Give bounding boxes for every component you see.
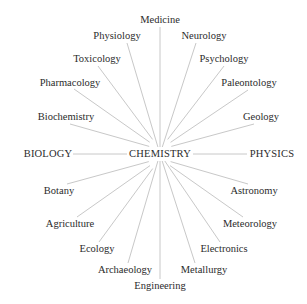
connector-line (171, 90, 248, 142)
node-label-botany: Botany (44, 185, 74, 197)
node-label-pharmacology: Pharmacology (40, 77, 101, 89)
node-label-engineering: Engineering (134, 280, 185, 292)
node-label-medicine: Medicine (140, 14, 180, 26)
connector-line (70, 124, 149, 146)
node-label-agriculture: Agriculture (46, 218, 94, 230)
node-label-biology: BIOLOGY (24, 148, 73, 160)
chemistry-central-science-diagram: CHEMISTRY MedicinePhysiologyNeurologyTox… (0, 0, 307, 304)
connector-line (77, 166, 150, 217)
node-label-ecology: Ecology (80, 243, 115, 255)
node-label-biochemistry: Biochemistry (38, 111, 95, 123)
node-label-psychology: Psychology (199, 53, 248, 65)
node-label-physiology: Physiology (93, 30, 140, 42)
node-label-physics: PHYSICS (250, 148, 295, 160)
node-label-neurology: Neurology (182, 30, 227, 42)
connector-line (128, 161, 158, 263)
node-label-toxicology: Toxicology (73, 53, 121, 65)
connector-line (162, 161, 195, 263)
connector-line (127, 43, 158, 147)
node-label-electronics: Electronics (200, 243, 247, 255)
connector-line (171, 162, 248, 184)
node-label-geology: Geology (243, 111, 279, 123)
node-label-astronomy: Astronomy (230, 185, 277, 197)
node-label-archaeology: Archaeology (98, 264, 152, 276)
node-label-meteorology: Meteorology (223, 218, 277, 230)
node-label-metallurgy: Metallurgy (181, 264, 227, 276)
connector-line (171, 124, 254, 146)
center-label-chemistry: CHEMISTRY (129, 148, 191, 160)
connector-line (67, 162, 149, 184)
connector-line (162, 43, 196, 147)
node-label-paleontology: Paleontology (221, 77, 276, 89)
